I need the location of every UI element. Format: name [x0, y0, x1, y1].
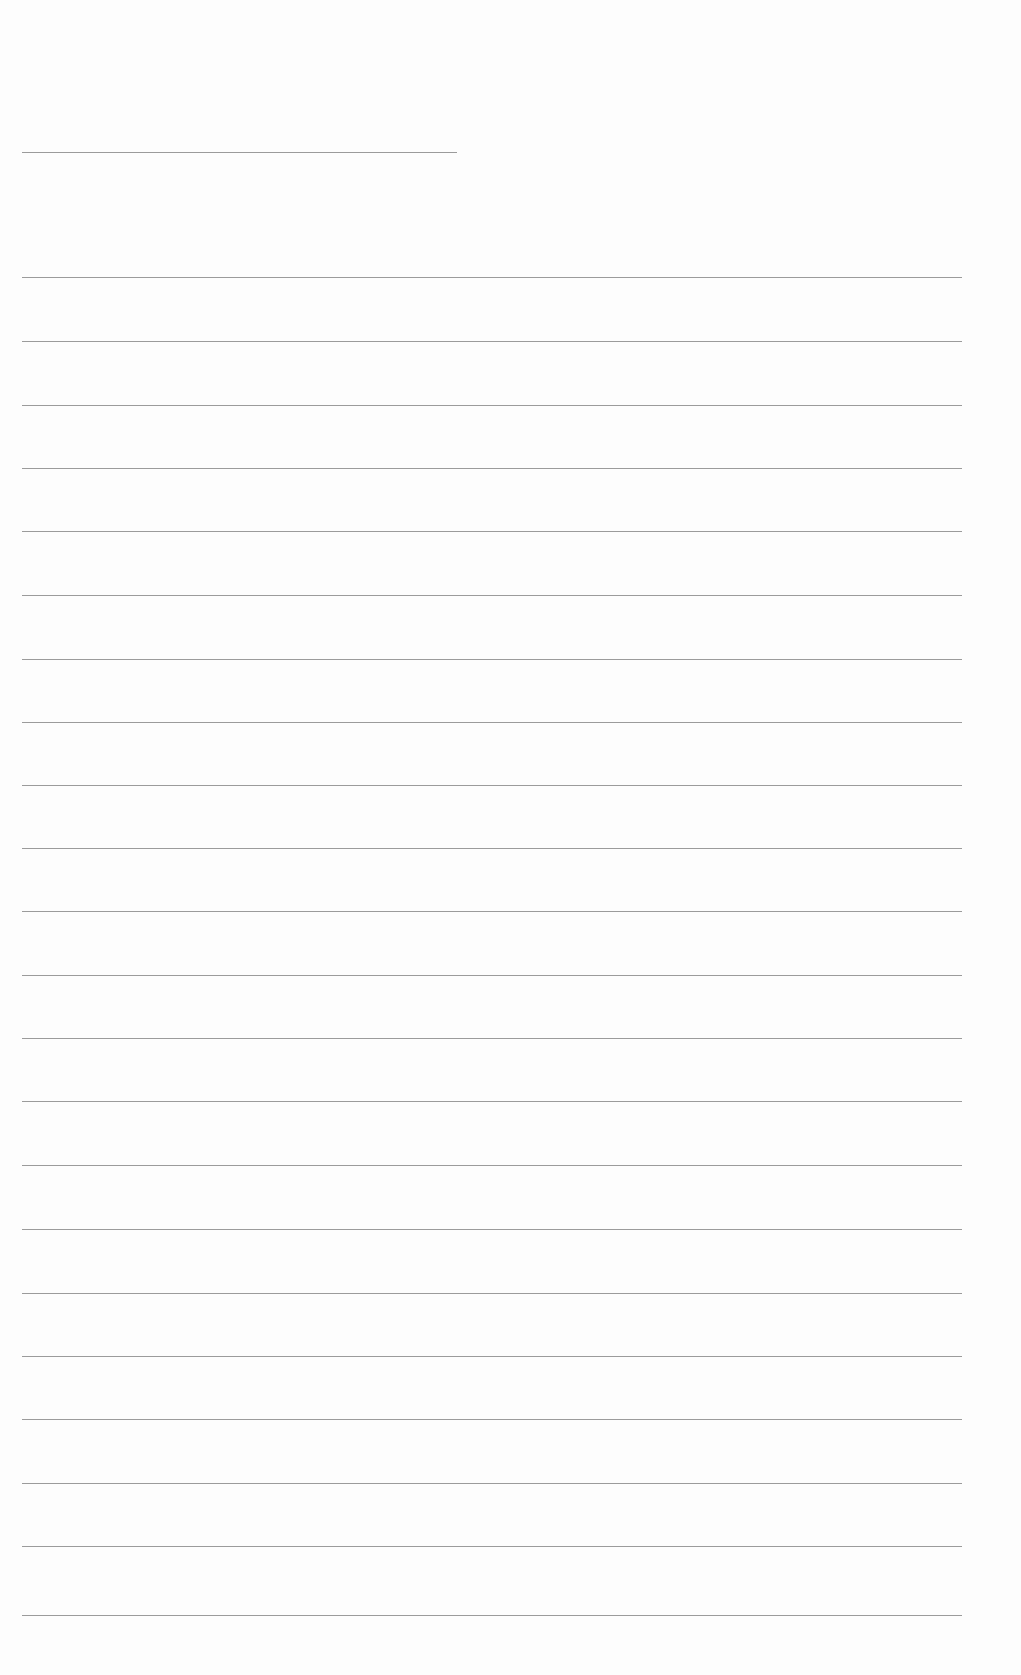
ruled-line [22, 1101, 962, 1102]
ruled-line [22, 277, 962, 278]
ruled-line [22, 1293, 962, 1294]
ruled-line [22, 785, 962, 786]
ruled-line [22, 1615, 962, 1616]
ruled-line [22, 595, 962, 596]
ruled-line [22, 1419, 962, 1420]
ruled-line [22, 1165, 962, 1166]
ruled-line [22, 1229, 962, 1230]
ruled-line [22, 1356, 962, 1357]
ruled-line [22, 848, 962, 849]
lined-paper-page [0, 0, 1021, 1675]
ruled-line [22, 531, 962, 532]
ruled-line [22, 468, 962, 469]
ruled-line [22, 911, 962, 912]
ruled-line [22, 405, 962, 406]
ruled-line [22, 1483, 962, 1484]
ruled-line [22, 1546, 962, 1547]
ruled-line [22, 1038, 962, 1039]
header-rule-line [22, 152, 457, 153]
ruled-line [22, 722, 962, 723]
ruled-line [22, 975, 962, 976]
ruled-line [22, 659, 962, 660]
ruled-line [22, 341, 962, 342]
